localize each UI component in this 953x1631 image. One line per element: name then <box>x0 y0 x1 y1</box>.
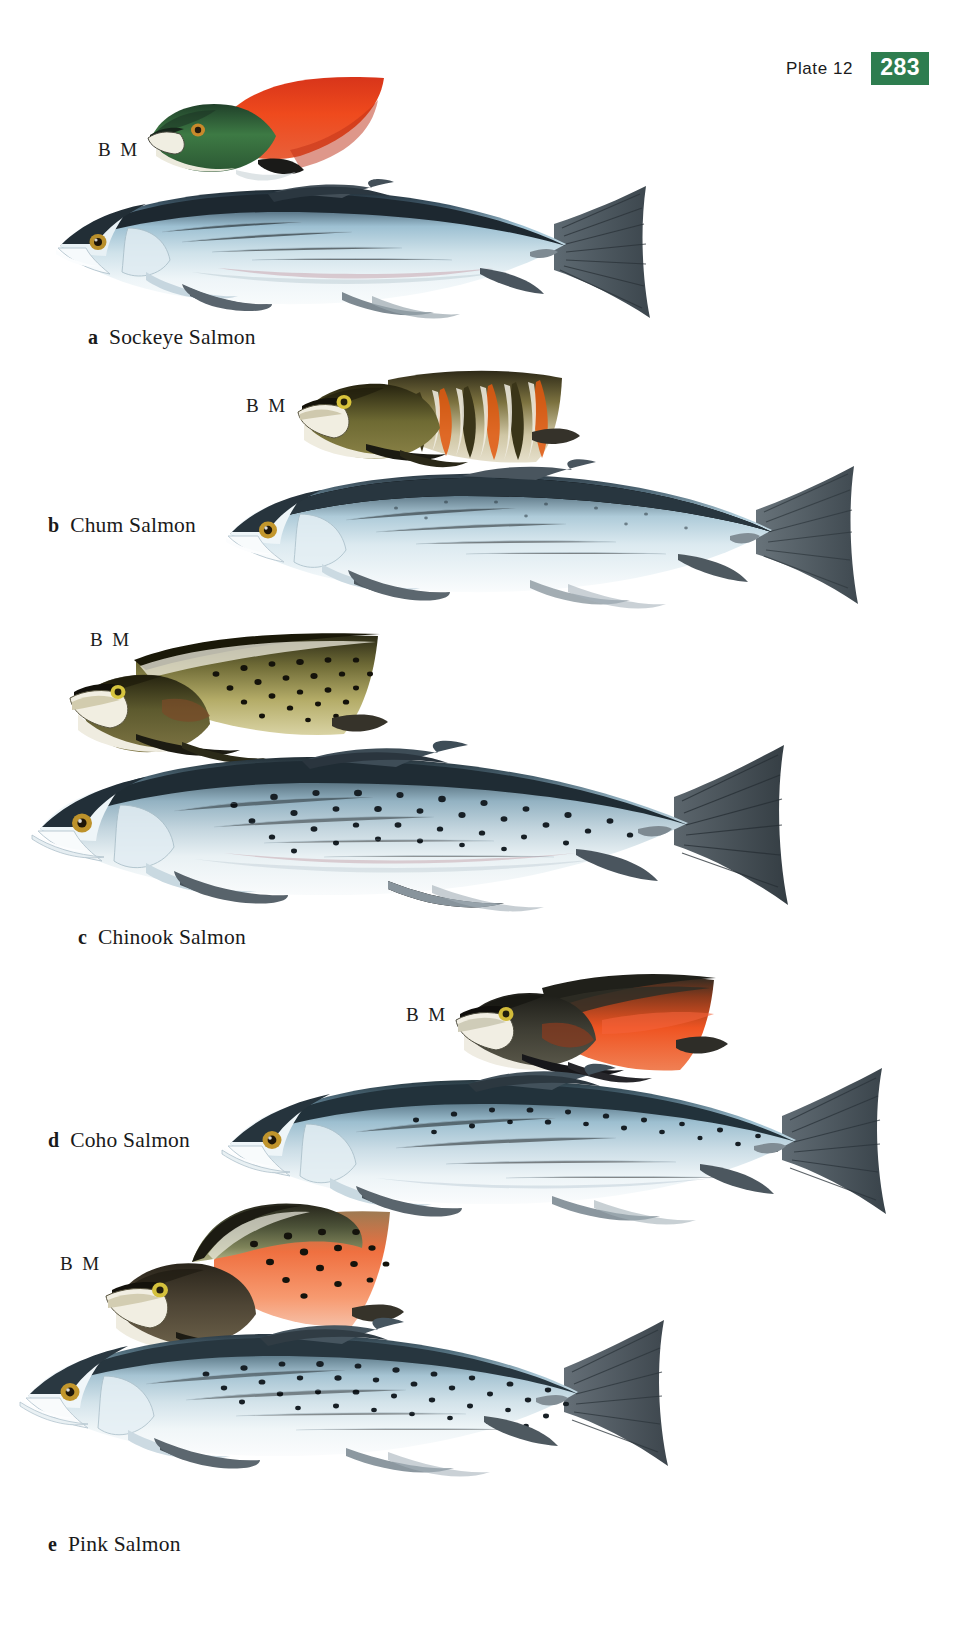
caption-coho: dCoho Salmon <box>48 1128 190 1153</box>
bm-label-coho: B M <box>406 1004 448 1026</box>
page-number-badge: 283 <box>871 52 929 85</box>
illustration-chum-adult <box>216 452 878 638</box>
caption-letter-a: a <box>88 326 98 348</box>
bm-label-sockeye: B M <box>98 139 140 161</box>
caption-name-sockeye: Sockeye Salmon <box>109 325 256 349</box>
illustration-chinook-adult <box>24 735 814 945</box>
caption-name-coho: Coho Salmon <box>70 1128 190 1152</box>
caption-letter-e: e <box>48 1533 57 1555</box>
caption-letter-d: d <box>48 1129 59 1151</box>
caption-letter-c: c <box>78 926 87 948</box>
caption-letter-b: b <box>48 514 59 536</box>
caption-name-chum: Chum Salmon <box>70 513 196 537</box>
illustration-pink-adult <box>16 1312 686 1502</box>
caption-name-pink: Pink Salmon <box>68 1532 181 1556</box>
bm-label-pink: B M <box>60 1253 102 1275</box>
plate-label: Plate 12 <box>786 59 853 79</box>
plate-header: Plate 12 283 <box>786 52 929 85</box>
caption-chum: bChum Salmon <box>48 513 196 538</box>
caption-name-chinook: Chinook Salmon <box>98 925 246 949</box>
caption-chinook: cChinook Salmon <box>78 925 246 950</box>
plate-page: Plate 12 283 B M <box>0 0 953 1631</box>
caption-sockeye: aSockeye Salmon <box>88 325 256 350</box>
caption-pink: ePink Salmon <box>48 1532 181 1557</box>
bm-label-chum: B M <box>246 395 288 417</box>
